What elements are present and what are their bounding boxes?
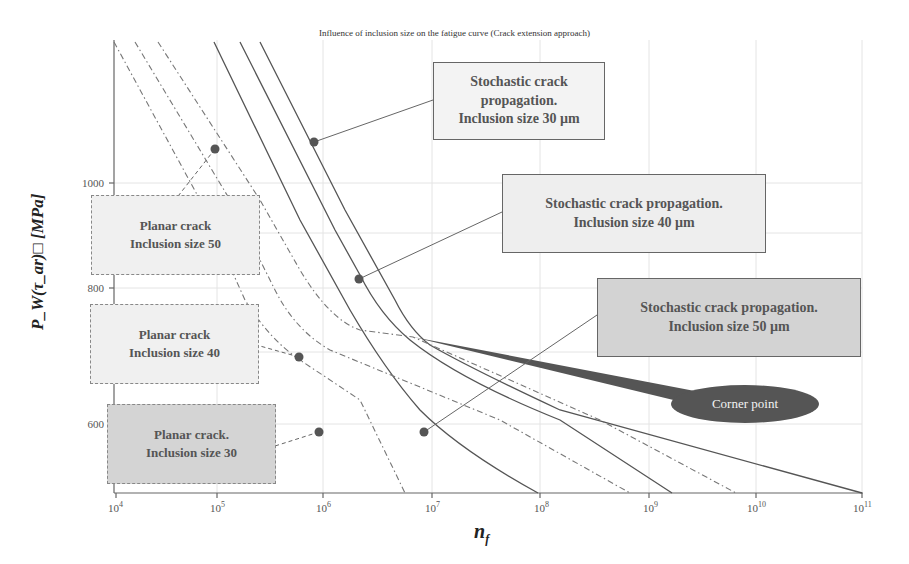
- callout-planar-50: Planar crack Inclusion size 50: [91, 195, 260, 275]
- marker-stoch-40: [355, 275, 364, 284]
- callout-line: Planar crack: [139, 326, 211, 344]
- x-axis-label-main: n: [474, 520, 485, 542]
- y-axis-label: P_W(τ_ar)□ [MPa]: [28, 194, 48, 330]
- chart-title: Influence of inclusion size on the fatig…: [0, 28, 909, 38]
- marker-planar-50: [211, 145, 220, 154]
- x-tick-1e8: 108: [534, 500, 549, 514]
- callout-stoch-50: Stochastic crack propagation. Inclusion …: [597, 278, 861, 357]
- callout-line: Stochastic crack propagation.: [640, 299, 817, 318]
- y-tick-600: 600: [64, 418, 104, 430]
- callout-line: Inclusion size 40: [129, 344, 220, 362]
- x-tick-1e7: 107: [425, 500, 440, 514]
- callout-planar-40: Planar crack Inclusion size 40: [90, 304, 259, 384]
- x-axis-label-sub: f: [485, 532, 489, 546]
- corner-point-label: Corner point: [671, 385, 819, 423]
- x-tick-1e11: 1011: [853, 500, 872, 514]
- callout-line: Stochastic crack propagation.: [545, 195, 722, 214]
- callout-line: Inclusion size 30 µm: [458, 110, 579, 129]
- callout-line: Inclusion size 50 µm: [668, 318, 789, 337]
- x-tick-1e4: 104: [108, 500, 123, 514]
- callout-line: Planar crack.: [154, 426, 229, 444]
- callout-line: Inclusion size 30: [146, 444, 237, 462]
- callout-line: Inclusion size 40 µm: [573, 214, 694, 233]
- marker-planar-40: [295, 353, 304, 362]
- marker-stoch-50: [420, 428, 429, 437]
- callout-line: Planar crack: [140, 217, 212, 235]
- callout-line: Stochastic crack propagation.: [434, 73, 604, 111]
- y-tick-800: 800: [64, 282, 104, 294]
- x-tick-1e6: 106: [316, 500, 331, 514]
- callout-stoch-40: Stochastic crack propagation. Inclusion …: [502, 174, 766, 253]
- callout-line: Inclusion size 50: [130, 235, 221, 253]
- callout-stoch-30: Stochastic crack propagation. Inclusion …: [433, 62, 605, 140]
- markers: [211, 138, 429, 437]
- x-axis-label: nf: [474, 520, 489, 547]
- x-tick-1e5: 105: [210, 500, 225, 514]
- marker-stoch-30: [310, 138, 319, 147]
- x-tick-1e9: 109: [643, 500, 658, 514]
- y-tick-1000: 1000: [64, 177, 104, 189]
- callout-planar-30: Planar crack. Inclusion size 30: [107, 404, 276, 484]
- x-tick-1e10: 1010: [747, 500, 766, 514]
- marker-planar-30: [315, 428, 324, 437]
